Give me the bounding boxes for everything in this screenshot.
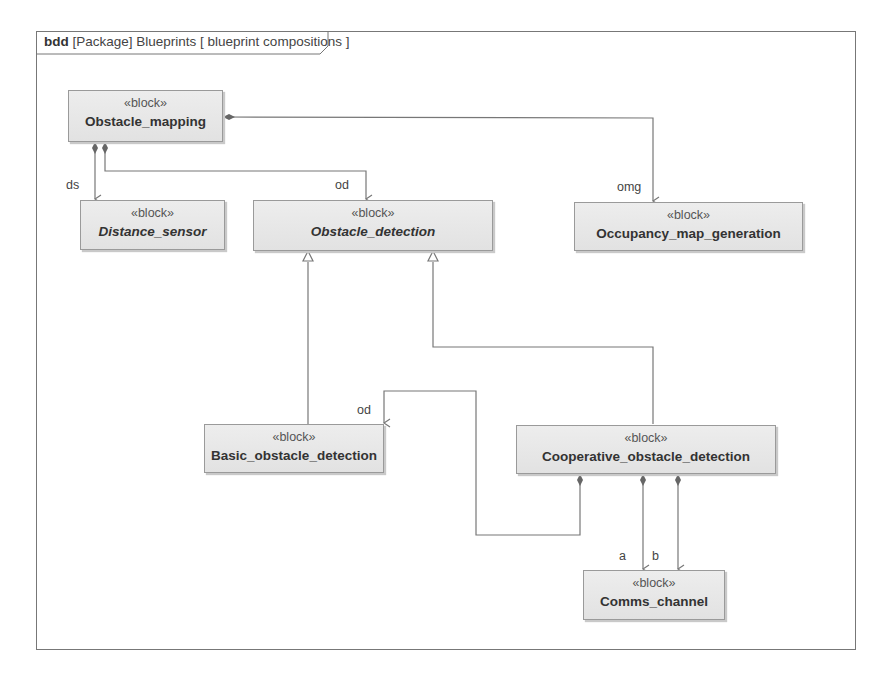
block-stereotype: «block» bbox=[205, 430, 383, 445]
block-stereotype: «block» bbox=[254, 206, 492, 221]
block-stereotype: «block» bbox=[81, 206, 224, 221]
block-obstacle-mapping[interactable]: «block» Obstacle_mapping bbox=[68, 90, 223, 142]
role-label-od: od bbox=[335, 178, 349, 192]
generalization-basic[interactable] bbox=[303, 251, 313, 424]
block-name: Comms_channel bbox=[584, 593, 724, 611]
block-name: Occupancy_map_generation bbox=[575, 225, 802, 243]
role-label-a: a bbox=[619, 549, 626, 563]
frame-title: bdd [Package] Blueprints [ blueprint com… bbox=[44, 34, 349, 49]
block-name: Obstacle_detection bbox=[254, 223, 492, 241]
block-obstacle-detection[interactable]: «block» Obstacle_detection bbox=[253, 200, 493, 251]
composition-omg[interactable] bbox=[223, 114, 653, 201]
frame-kind: bdd bbox=[44, 34, 69, 49]
block-stereotype: «block» bbox=[517, 431, 775, 446]
diamond-icon bbox=[223, 114, 235, 120]
block-name: Cooperative_obstacle_detection bbox=[517, 448, 775, 466]
block-distance-sensor[interactable]: «block» Distance_sensor bbox=[80, 200, 225, 250]
block-stereotype: «block» bbox=[69, 96, 222, 111]
block-cooperative-obstacle-detection[interactable]: «block» Cooperative_obstacle_detection bbox=[516, 425, 776, 474]
diamond-icon bbox=[640, 474, 646, 486]
diamond-icon bbox=[577, 474, 583, 486]
diamond-icon bbox=[102, 142, 108, 154]
frame-title-text: [Package] Blueprints [ blueprint composi… bbox=[73, 34, 350, 49]
composition-b[interactable] bbox=[675, 474, 681, 569]
diamond-icon bbox=[92, 142, 98, 154]
block-name: Distance_sensor bbox=[81, 223, 224, 241]
block-stereotype: «block» bbox=[575, 208, 802, 223]
diamond-icon bbox=[675, 474, 681, 486]
block-stereotype: «block» bbox=[584, 576, 724, 591]
composition-ds[interactable] bbox=[92, 142, 98, 199]
role-label-omg: omg bbox=[617, 180, 641, 194]
block-name: Basic_obstacle_detection bbox=[205, 447, 383, 465]
block-basic-obstacle-detection[interactable]: «block» Basic_obstacle_detection bbox=[204, 424, 384, 473]
block-name: Obstacle_mapping bbox=[69, 113, 222, 131]
generalization-cooperative[interactable] bbox=[428, 251, 653, 424]
hollow-triangle-icon bbox=[303, 251, 313, 261]
hollow-triangle-icon bbox=[428, 251, 438, 261]
composition-od[interactable] bbox=[102, 142, 366, 199]
role-label-ds: ds bbox=[66, 178, 79, 192]
role-label-od-basic: od bbox=[357, 403, 371, 417]
role-label-b: b bbox=[652, 549, 659, 563]
composition-a[interactable] bbox=[640, 474, 646, 569]
block-comms-channel[interactable]: «block» Comms_channel bbox=[583, 570, 725, 620]
block-occupancy-map-generation[interactable]: «block» Occupancy_map_generation bbox=[574, 202, 803, 251]
